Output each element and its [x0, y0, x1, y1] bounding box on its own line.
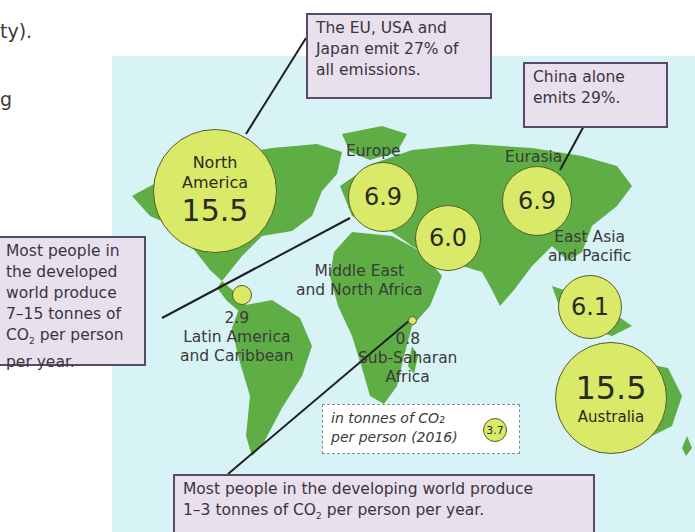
- region-value: 6.0: [429, 224, 467, 252]
- region-value: 6.9: [518, 187, 556, 215]
- region-value: 2.9: [180, 309, 294, 328]
- region-value: 15.5: [575, 369, 646, 407]
- legend-sample-bubble: 3.7: [483, 418, 507, 442]
- callout-developing-world: Most people in the developing world prod…: [173, 474, 595, 532]
- bubble-east-asia-pacific: 6.1: [558, 275, 622, 339]
- bubble-north-america: North America 15.5: [153, 129, 277, 253]
- callout-eu-usa-japan: The EU, USA and Japan emit 27% of all em…: [306, 13, 492, 99]
- label-eurasia: Eurasia: [505, 148, 562, 167]
- region-value: 0.8: [358, 330, 457, 349]
- bubble-europe: 6.9: [348, 162, 418, 232]
- units-legend: in tonnes of CO₂ per person (2016) 3.7: [322, 404, 520, 454]
- label-sub-saharan-africa: 0.8 Sub-Saharan Africa: [358, 330, 457, 387]
- label-east-asia-pacific: East Asia and Pacific: [548, 228, 631, 266]
- label-middle-east-north-africa: Middle East and North Africa: [296, 262, 423, 300]
- label-latin-america: 2.9 Latin America and Caribbean: [180, 309, 294, 366]
- bubble-australia: 15.5 Australia: [555, 342, 667, 454]
- label-europe: Europe: [346, 142, 401, 161]
- bubble-eurasia: 6.9: [502, 166, 572, 236]
- callout-china: China alone emits 29%.: [523, 62, 668, 128]
- bubble-latin-america: [232, 285, 252, 305]
- region-value: 6.9: [364, 183, 402, 211]
- region-name: Australia: [578, 407, 644, 427]
- region-value: 15.5: [182, 193, 249, 229]
- bubble-sub-saharan-africa: [408, 316, 417, 325]
- bubble-middle-east-north-africa: 6.0: [415, 205, 481, 271]
- region-name-line2: America: [182, 173, 248, 193]
- callout-developed-world: Most people in the developed world produ…: [0, 236, 146, 366]
- region-name-line1: North: [193, 153, 238, 173]
- region-value: 6.1: [571, 293, 609, 321]
